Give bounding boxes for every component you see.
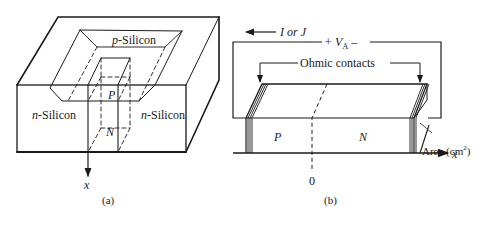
n-silicon-left-label: n-Silicon (32, 109, 76, 121)
area-label: Area (cm2) (422, 142, 470, 157)
caption-b: (b) (324, 194, 337, 206)
voltage-label: + VA – (324, 36, 357, 53)
x-axis-label-b: x (452, 148, 457, 160)
ohmic-contacts-label: Ohmic contacts (300, 57, 375, 69)
p-region-label-a: P (108, 89, 115, 101)
caption-a: (a) (102, 194, 114, 206)
current-label: I or J (280, 26, 306, 38)
n-silicon-right-label: n-Silicon (141, 109, 185, 121)
n-region-label-b: N (359, 131, 367, 143)
n-region-label-a: N (106, 126, 114, 138)
x-axis-label-a: x (84, 179, 89, 191)
p-region-label-b: P (274, 131, 281, 143)
origin-label: 0 (309, 175, 315, 187)
p-silicon-label: p-Silicon (112, 34, 156, 46)
